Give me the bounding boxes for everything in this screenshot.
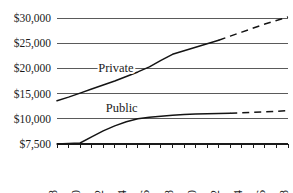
x-tick-label: 1998 bbox=[163, 190, 175, 193]
series-projection-public bbox=[230, 111, 288, 114]
series-line-private bbox=[57, 40, 219, 100]
x-tick-label: 2008 bbox=[278, 190, 290, 193]
x-tick-label: 2006 bbox=[255, 190, 267, 193]
x-tick-label: 1988 bbox=[47, 190, 59, 193]
y-tick-label: $25,000 bbox=[14, 37, 52, 50]
series-label-public: Public bbox=[106, 101, 138, 115]
y-axis-tick-labels: $7,500$10,000$15,000$20,000$25,000$30,00… bbox=[14, 12, 52, 151]
y-tick-label: $15,000 bbox=[14, 88, 52, 101]
line-chart: $7,500$10,000$15,000$20,000$25,000$30,00… bbox=[0, 0, 293, 193]
x-tick-label: 1994 bbox=[116, 190, 128, 193]
x-axis-tick-labels: 1988199019921994199619982000200220042006… bbox=[47, 190, 290, 193]
series-label-private: Private bbox=[98, 61, 134, 75]
chart-figure: $7,500$10,000$15,000$20,000$25,000$30,00… bbox=[0, 0, 293, 193]
y-tick-label: $10,000 bbox=[14, 113, 52, 126]
gridlines bbox=[57, 18, 288, 119]
series-inline-labels: PrivatePrivatePublicPublic bbox=[98, 61, 138, 115]
y-tick-label: $7,500 bbox=[19, 138, 51, 151]
y-tick-label: $20,000 bbox=[14, 62, 52, 75]
data-series bbox=[57, 17, 288, 144]
y-tick-label: $30,000 bbox=[14, 12, 52, 25]
x-tick-label: 2000 bbox=[186, 190, 198, 193]
series-line-public bbox=[57, 113, 230, 144]
x-tick-label: 2004 bbox=[232, 190, 244, 193]
x-axis-tickmarks bbox=[57, 144, 288, 148]
x-tick-label: 2002 bbox=[209, 190, 221, 193]
x-tick-label: 1992 bbox=[93, 190, 105, 193]
series-projection-private bbox=[219, 17, 288, 40]
x-tick-label: 1990 bbox=[70, 190, 82, 193]
x-tick-label: 1996 bbox=[139, 190, 151, 193]
